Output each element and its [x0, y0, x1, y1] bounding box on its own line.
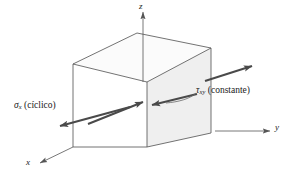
tau-qualifier: (constante)	[208, 85, 250, 95]
tau-xy-label: τxy (constante)	[196, 86, 250, 96]
tau-xy-arrow-upper	[205, 66, 252, 81]
axis-label-z: z	[139, 2, 143, 11]
axis-label-x: x	[26, 158, 30, 167]
x-axis-line	[40, 147, 73, 163]
stress-element-figure: z y x σx (cíclico) τxy (constante)	[0, 0, 294, 176]
sigma-x-label: σx (cíclico)	[14, 101, 56, 111]
sigma-qualifier: (cíclico)	[24, 100, 56, 110]
axis-label-y: y	[275, 123, 279, 132]
